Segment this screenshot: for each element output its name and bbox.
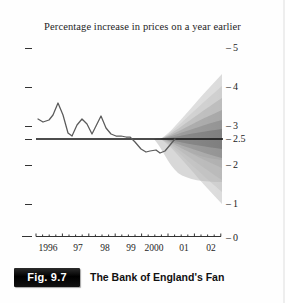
fan-chart-svg — [36, 40, 223, 238]
y-axis-label-2point5: –2.5 — [226, 134, 246, 144]
y-tick-left-3 — [25, 126, 32, 127]
y-tick-left-2 — [25, 165, 32, 166]
figure-caption: Fig. 9.7 The Bank of England's Fan — [0, 266, 285, 300]
y-tick-left-4 — [25, 87, 32, 88]
y-axis-label-3: –3 — [226, 121, 238, 131]
x-axis — [22, 231, 237, 241]
x-axis-label-02: 02 — [189, 243, 233, 253]
chart-title: Percentage increase in prices on a year … — [0, 21, 285, 32]
y-tick-left-2point5 — [25, 139, 32, 140]
figure-number-badge: Fig. 9.7 — [14, 268, 80, 287]
history-line — [38, 103, 175, 153]
figure-page: Percentage increase in prices on a year … — [0, 0, 285, 303]
y-axis-label-2: –2 — [226, 160, 238, 170]
y-axis-label-1: –1 — [226, 199, 238, 209]
y-tick-left-5 — [25, 48, 32, 49]
figure-caption-text: The Bank of England's Fan — [90, 268, 224, 287]
y-axis-label-5: –5 — [226, 43, 238, 53]
chart-plot-area — [36, 40, 223, 238]
y-axis-label-4: –4 — [226, 82, 238, 92]
y-tick-left-1 — [25, 204, 32, 205]
